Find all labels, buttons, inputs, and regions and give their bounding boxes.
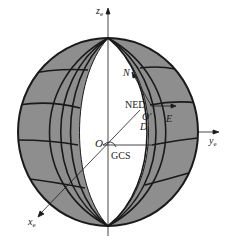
y-axis-label: ye <box>209 136 217 148</box>
x-axis-subscript: e <box>32 221 35 229</box>
y-axis-subscript: e <box>213 140 216 148</box>
east-label: E <box>166 114 172 124</box>
ned-label: NED <box>125 100 146 110</box>
z-axis-label: ze <box>96 6 103 18</box>
z-axis-subscript: e <box>100 10 103 18</box>
down-label: D <box>140 122 147 132</box>
north-label: N <box>123 68 130 78</box>
globe-diagram <box>0 0 233 247</box>
origin-label: O <box>95 138 103 149</box>
x-axis-label: xe <box>28 217 36 229</box>
gcs-label: GCS <box>111 151 130 161</box>
